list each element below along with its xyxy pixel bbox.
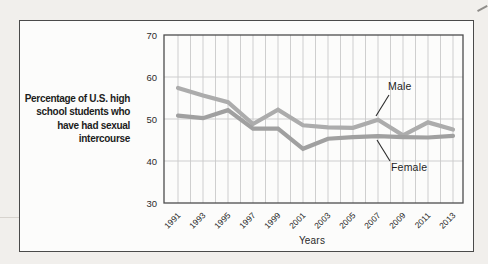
male-series-label: Male [388, 80, 412, 92]
x-axis-tick-label: 1999 [262, 210, 282, 230]
y-axis-tick-label: 70 [146, 30, 157, 41]
y-axis-tick-label: 60 [146, 72, 157, 83]
x-axis-tick-label: 1997 [237, 210, 257, 230]
x-axis-tick-label: 2001 [287, 210, 307, 230]
female-callout-line [377, 140, 390, 161]
x-axis-tick-label: 1995 [212, 210, 232, 230]
female-series-label: Female [391, 161, 427, 173]
x-axis-tick-label: 2011 [413, 210, 433, 230]
y-axis-tick-label: 50 [146, 114, 157, 125]
x-axis-tick-label: 1991 [162, 210, 182, 230]
x-axis-tick-label: 1993 [187, 210, 207, 230]
x-axis-tick-label: 2009 [387, 210, 407, 230]
x-axis-tick-label: 2005 [337, 210, 357, 230]
x-axis-tick-label: 2013 [437, 210, 457, 230]
x-axis-tick-label: 2007 [362, 210, 382, 230]
x-axis-title: Years [262, 235, 362, 246]
x-axis-tick-label: 2003 [312, 210, 332, 230]
y-axis-tick-label: 40 [146, 156, 157, 167]
y-axis-tick-label: 30 [146, 198, 157, 209]
